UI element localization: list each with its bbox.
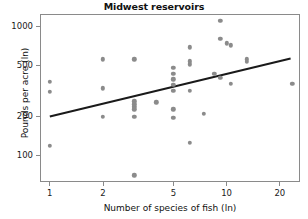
y-tickmark [36, 26, 40, 27]
x-tick-label: 1 [30, 188, 70, 198]
x-tick-label: 2 [83, 188, 123, 198]
y-tickmark [36, 116, 40, 117]
x-tickmark [173, 182, 174, 186]
y-tick-label: 100 [0, 150, 33, 160]
y-tickmark [36, 155, 40, 156]
x-tickmark [226, 182, 227, 186]
x-tick-label: 5 [153, 188, 193, 198]
chart-figure: Midwest reservoirs Pounds per acre (ln) … [0, 0, 308, 219]
y-tick-label: 1000 [0, 21, 33, 31]
x-tickmark [49, 182, 50, 186]
y-tickmark [36, 65, 40, 66]
x-tick-label: 20 [260, 188, 300, 198]
data-layer [0, 0, 308, 219]
y-tick-label: 200 [0, 111, 33, 121]
y-tick-label: 500 [0, 60, 33, 70]
x-tick-label: 10 [207, 188, 247, 198]
x-tickmark [279, 182, 280, 186]
x-tickmark [103, 182, 104, 186]
